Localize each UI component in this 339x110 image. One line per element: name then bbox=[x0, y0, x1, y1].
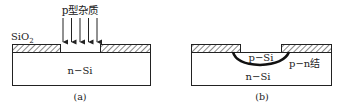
diffusion-diagram: p型杂质 SiO2 n−Si (a) p−Si p−n结 n−Si (b) bbox=[0, 0, 339, 110]
panel-b: p−Si p−n结 n−Si (b) bbox=[192, 45, 332, 103]
p-region-label: p−Si bbox=[249, 52, 274, 63]
caption-b: (b) bbox=[255, 91, 269, 102]
substrate-label-b: n−Si bbox=[246, 71, 271, 82]
oxide-left-b bbox=[192, 45, 241, 53]
substrate-label-a: n−Si bbox=[68, 65, 93, 76]
panel-a: p型杂质 SiO2 n−Si (a) bbox=[11, 4, 151, 102]
oxide-right-a bbox=[101, 45, 151, 53]
dopant-label: p型杂质 bbox=[62, 4, 99, 16]
junction-label: p−n结 bbox=[289, 57, 320, 69]
oxide-label: SiO2 bbox=[11, 31, 34, 45]
oxide-left-a bbox=[13, 45, 61, 53]
oxide-right-b bbox=[282, 45, 332, 53]
dopant-arrows bbox=[63, 18, 97, 42]
caption-a: (a) bbox=[73, 91, 86, 102]
